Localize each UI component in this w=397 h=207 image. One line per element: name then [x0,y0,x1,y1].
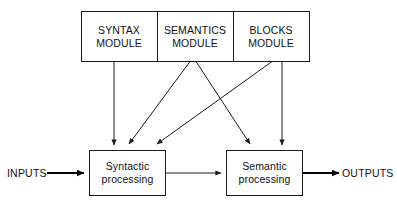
module-box-blocks [234,12,310,62]
outputs-label: OUTPUTS [342,167,394,179]
connector-semantics-to-syntactic [129,62,190,145]
diagram-canvas [0,0,397,207]
module-box-syntax [82,12,158,62]
block-diagram: SYNTAX MODULE SEMANTICS MODULE BLOCKS MO… [0,0,397,207]
connector-semantics-to-semantic [196,62,250,145]
process-box-syntactic [90,151,166,196]
module-box-semantics [158,12,234,62]
process-box-semantic [227,151,303,196]
inputs-label: INPUTS [7,167,47,179]
connector-blocks-to-syntactic [157,62,272,145]
